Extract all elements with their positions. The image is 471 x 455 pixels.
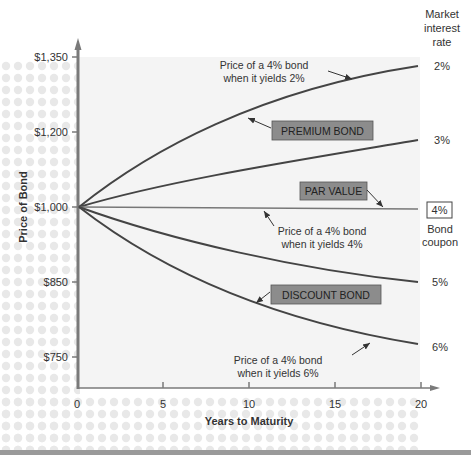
coupon-caption: coupon bbox=[422, 236, 458, 248]
y-tick-label: $1,200 bbox=[34, 126, 68, 138]
callout-yield4: Price of a 4% bond bbox=[278, 225, 367, 237]
callout-yield6: when it yields 6% bbox=[236, 367, 318, 379]
y-tick-label: $750 bbox=[44, 351, 68, 363]
y-axis-label: Price of Bond bbox=[17, 171, 29, 243]
rate-label-2: 2% bbox=[434, 60, 450, 72]
market-rate-header: Market bbox=[425, 8, 459, 20]
right-labels: Market interest rate 2% 3% 4% Bond coupo… bbox=[422, 8, 460, 353]
market-rate-header: interest bbox=[424, 22, 460, 34]
x-tick-label: 20 bbox=[415, 398, 427, 410]
y-tick-label: $1,000 bbox=[34, 201, 68, 213]
rate-label-6: 6% bbox=[432, 341, 448, 353]
coupon-rate: 4% bbox=[432, 204, 448, 216]
bond-price-chart: $1,350 $1,200 $1,000 $850 $750 Price of … bbox=[0, 0, 471, 455]
market-rate-header: rate bbox=[433, 36, 452, 48]
plot-area bbox=[78, 57, 420, 388]
callout-yield4: when it yields 4% bbox=[280, 238, 362, 250]
callout-yield2: when it yields 2% bbox=[222, 72, 304, 84]
callout-yield2: Price of a 4% bond bbox=[220, 59, 309, 71]
x-tick-label: 10 bbox=[243, 398, 255, 410]
callout-yield6: Price of a 4% bond bbox=[234, 354, 323, 366]
premium-bond-label: PREMIUM BOND bbox=[281, 125, 364, 137]
y-tick-label: $850 bbox=[44, 276, 68, 288]
coupon-caption: Bond bbox=[427, 223, 453, 235]
y-tick-label: $1,350 bbox=[34, 51, 68, 63]
par-value-label: PAR VALUE bbox=[305, 185, 362, 197]
rate-label-3: 3% bbox=[434, 134, 450, 146]
bottom-rule bbox=[0, 450, 471, 455]
x-tick-label: 0 bbox=[74, 398, 80, 410]
discount-bond-label: DISCOUNT BOND bbox=[282, 289, 370, 301]
x-tick-label: 15 bbox=[329, 398, 341, 410]
x-tick-label: 5 bbox=[160, 398, 166, 410]
x-axis-label: Years to Maturity bbox=[205, 415, 295, 427]
rate-label-5: 5% bbox=[432, 276, 448, 288]
